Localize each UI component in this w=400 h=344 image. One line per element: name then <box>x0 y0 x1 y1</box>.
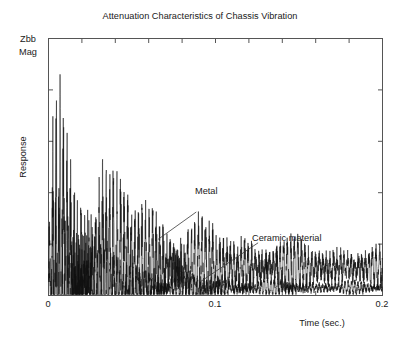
zbb-mag-label: Zbb Mag <box>10 33 46 58</box>
plot-frame <box>49 39 383 296</box>
x-tick-label-0: 0 <box>28 299 68 309</box>
axis-ticks <box>49 39 383 296</box>
plot-border <box>49 39 383 296</box>
x-axis-label: Time (sec.) <box>262 318 382 328</box>
y-axis-label: Response <box>18 117 28 197</box>
zbb-mag-label-line2: Mag <box>10 46 46 59</box>
x-tick-label-1: 0.1 <box>195 299 235 309</box>
leader-line-metal <box>158 212 196 239</box>
trace-metal <box>49 74 383 294</box>
vibration-attenuation-chart: Attenuation Characteristics of Chassis V… <box>0 0 400 344</box>
plot-canvas <box>0 0 400 344</box>
annotation-metal: Metal <box>195 186 217 196</box>
chart-title: Attenuation Characteristics of Chassis V… <box>0 11 400 21</box>
x-tick-label-2: 0.2 <box>362 299 400 309</box>
annotation-ceramic: Ceramic material <box>252 233 321 243</box>
data-traces <box>49 74 383 294</box>
zbb-mag-label-line1: Zbb <box>10 33 46 46</box>
